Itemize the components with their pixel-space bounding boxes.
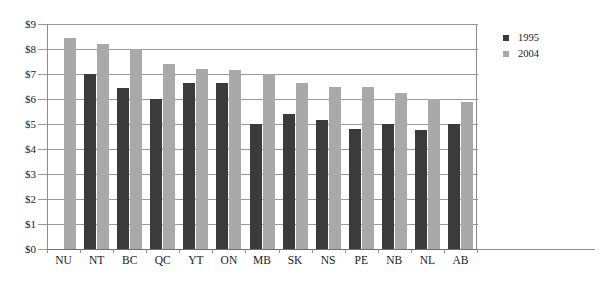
bar-nl-1995[interactable] xyxy=(415,130,427,250)
y-axis-label: $3 xyxy=(2,169,36,180)
bar-group-ab xyxy=(448,24,473,249)
bar-ab-2004[interactable] xyxy=(461,102,473,250)
bar-group-pe xyxy=(349,24,374,249)
x-axis-extension-line xyxy=(477,249,595,250)
y-axis-tick xyxy=(38,249,47,250)
legend-item-2004[interactable]: 2004 xyxy=(503,47,593,60)
y-axis-labels: $9$8$7$6$5$4$3$2$1$0 xyxy=(0,0,36,286)
bar-group-ns xyxy=(316,24,341,249)
bar-sk-2004[interactable] xyxy=(296,83,308,249)
bar-group-mb xyxy=(250,24,275,249)
y-axis-label: $4 xyxy=(2,144,36,155)
bar-qc-2004[interactable] xyxy=(163,64,175,249)
x-axis-tick xyxy=(47,249,48,253)
y-axis-label: $6 xyxy=(2,94,36,105)
bar-nb-1995[interactable] xyxy=(382,124,394,249)
x-axis-tick xyxy=(179,249,180,253)
x-axis-tick xyxy=(113,249,114,253)
bar-mb-2004[interactable] xyxy=(263,74,275,249)
legend-swatch-icon-2004 xyxy=(503,51,509,57)
x-axis-labels: NUNTBCQCYTONMBSKNSPENBNLAB xyxy=(47,253,477,273)
x-axis-tick xyxy=(444,249,445,253)
x-axis-tick xyxy=(146,249,147,253)
x-axis-label-ab: AB xyxy=(440,253,480,267)
bar-pe-1995[interactable] xyxy=(349,129,361,249)
bar-group-nu xyxy=(51,24,76,249)
legend-label-2004: 2004 xyxy=(518,48,539,59)
x-axis-tick xyxy=(345,249,346,253)
y-axis-tick xyxy=(38,99,47,100)
x-axis-tick xyxy=(312,249,313,253)
bar-yt-2004[interactable] xyxy=(196,69,208,249)
y-axis-label: $2 xyxy=(2,194,36,205)
y-axis-tick xyxy=(38,199,47,200)
y-axis-label: $5 xyxy=(2,119,36,130)
y-axis-tick xyxy=(38,149,47,150)
x-axis-tick xyxy=(212,249,213,253)
y-axis-label: $9 xyxy=(2,19,36,30)
y-axis-tick xyxy=(38,74,47,75)
bar-group-bc xyxy=(117,24,142,249)
y-axis-tick xyxy=(38,124,47,125)
y-axis-tick xyxy=(38,24,47,25)
bar-ns-1995[interactable] xyxy=(316,120,328,249)
x-axis-tick xyxy=(245,249,246,253)
bar-nt-2004[interactable] xyxy=(97,44,109,249)
bars-layer xyxy=(47,24,477,249)
legend-item-1995[interactable]: 1995 xyxy=(503,31,593,44)
bar-group-nl xyxy=(415,24,440,249)
bar-ns-2004[interactable] xyxy=(329,87,341,250)
bar-group-sk xyxy=(283,24,308,249)
bar-ab-1995[interactable] xyxy=(448,124,460,249)
y-axis-tick xyxy=(38,224,47,225)
bar-on-1995[interactable] xyxy=(216,83,228,249)
bar-pe-2004[interactable] xyxy=(362,87,374,250)
bar-yt-1995[interactable] xyxy=(183,83,195,249)
bar-group-yt xyxy=(183,24,208,249)
y-axis-label: $7 xyxy=(2,69,36,80)
y-axis-label: $8 xyxy=(2,44,36,55)
bar-nb-2004[interactable] xyxy=(395,93,407,249)
y-axis-tick xyxy=(38,49,47,50)
bar-bc-1995[interactable] xyxy=(117,88,129,249)
y-axis-label: $1 xyxy=(2,219,36,230)
x-axis-tick xyxy=(411,249,412,253)
bar-mb-1995[interactable] xyxy=(250,124,262,249)
bar-on-2004[interactable] xyxy=(229,70,241,249)
bar-sk-1995[interactable] xyxy=(283,114,295,249)
y-axis-label: $0 xyxy=(2,244,36,255)
bar-nu-2004[interactable] xyxy=(64,38,76,249)
bar-group-qc xyxy=(150,24,175,249)
x-axis-tick xyxy=(80,249,81,253)
bar-group-on xyxy=(216,24,241,249)
x-axis-tick xyxy=(378,249,379,253)
legend-label-1995: 1995 xyxy=(518,32,539,43)
bar-group-nt xyxy=(84,24,109,249)
bar-nt-1995[interactable] xyxy=(84,74,96,249)
chart-legend: 1995 2004 xyxy=(503,31,593,63)
bar-bc-2004[interactable] xyxy=(130,49,142,249)
bar-chart: $9$8$7$6$5$4$3$2$1$0 NUNTBCQCYTONMBSKNSP… xyxy=(0,0,605,286)
x-axis-tick xyxy=(279,249,280,253)
bar-group-nb xyxy=(382,24,407,249)
legend-swatch-icon-1995 xyxy=(503,35,509,41)
bar-qc-1995[interactable] xyxy=(150,99,162,249)
y-axis-tick xyxy=(38,174,47,175)
x-axis-tick xyxy=(477,249,478,253)
bar-nl-2004[interactable] xyxy=(428,99,440,249)
